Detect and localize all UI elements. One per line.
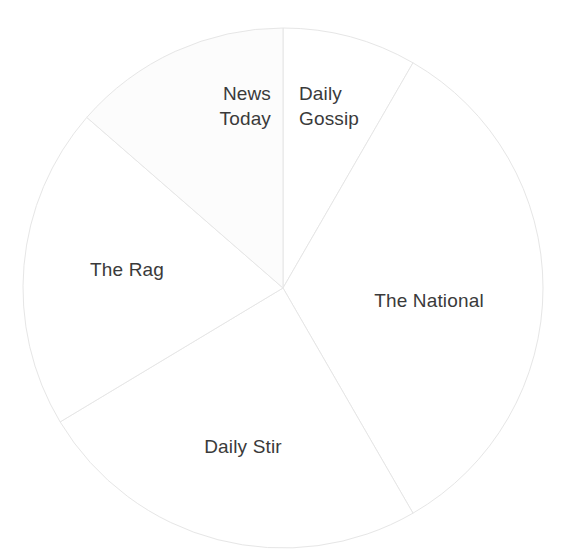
pie-label-line: News (223, 83, 271, 104)
pie-label-line: Gossip (299, 108, 359, 129)
pie-label-line: Daily Stir (204, 436, 282, 457)
pie-slices-group (23, 28, 543, 548)
pie-label-line: The National (374, 290, 484, 311)
pie-label-line: The Rag (90, 259, 164, 280)
pie-label-line: Daily (299, 83, 342, 104)
pie-label-the-rag: The Rag (90, 259, 164, 280)
pie-label-the-national: The National (374, 290, 484, 311)
pie-label-daily-stir: Daily Stir (204, 436, 282, 457)
pie-chart-figure: DailyGossipThe NationalDaily StirThe Rag… (0, 0, 569, 551)
pie-label-line: Today (220, 108, 272, 129)
pie-chart-canvas: DailyGossipThe NationalDaily StirThe Rag… (0, 0, 569, 551)
